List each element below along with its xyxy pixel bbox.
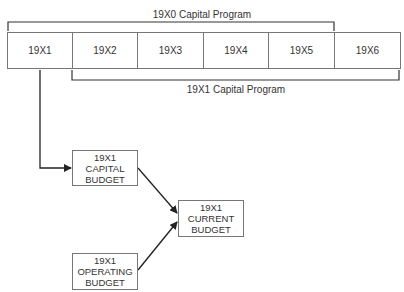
capital-budget-line1: 19X1 bbox=[94, 152, 116, 163]
bottom-bracket bbox=[72, 70, 399, 80]
year-box-19x6: 19X6 bbox=[334, 32, 401, 69]
year-box-19x5: 19X5 bbox=[268, 32, 335, 69]
current-budget-line2: CURRENT bbox=[188, 213, 234, 224]
bottom-bracket-label: 19X1 Capital Program bbox=[72, 84, 400, 95]
arrow-operating-to-current bbox=[138, 222, 177, 270]
top-bracket bbox=[8, 22, 334, 31]
top-bracket-label: 19X0 Capital Program bbox=[0, 9, 404, 20]
year-box-19x2: 19X2 bbox=[72, 32, 138, 69]
current-budget-line1: 19X1 bbox=[200, 202, 222, 213]
operating-budget-line1: 19X1 bbox=[94, 255, 116, 266]
capital-budget-box: 19X1 CAPITAL BUDGET bbox=[72, 150, 138, 186]
arrow-year-to-capital bbox=[40, 70, 71, 168]
year-box-19x3: 19X3 bbox=[137, 32, 204, 69]
current-budget-line3: BUDGET bbox=[191, 224, 231, 235]
arrow-capital-to-current bbox=[138, 168, 177, 213]
capital-budget-line3: BUDGET bbox=[85, 174, 125, 185]
year-box-19x4: 19X4 bbox=[203, 32, 269, 69]
year-box-19x1: 19X1 bbox=[7, 32, 73, 69]
current-budget-box: 19X1 CURRENT BUDGET bbox=[178, 200, 244, 237]
operating-budget-line3: BUDGET bbox=[85, 277, 125, 288]
capital-budget-line2: CAPITAL bbox=[86, 163, 125, 174]
operating-budget-line2: OPERATING bbox=[77, 266, 132, 277]
operating-budget-box: 19X1 OPERATING BUDGET bbox=[72, 253, 138, 290]
